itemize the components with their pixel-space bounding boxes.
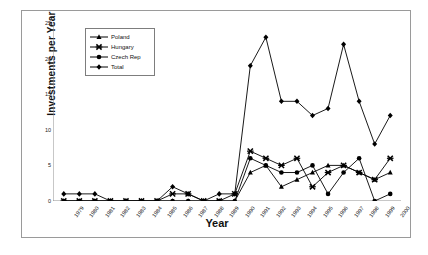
x-tick-label: 1983 <box>135 205 147 218</box>
x-tick-label: 1997 <box>352 205 364 218</box>
x-tick-label: 1980 <box>88 205 100 218</box>
y-axis-tick-labels: 0510152025 <box>32 23 51 201</box>
circle-marker <box>89 52 109 62</box>
y-tick-label: 25 <box>35 20 51 26</box>
x-tick-label: 1987 <box>197 205 209 218</box>
legend-item-czech-rep: Czech Rep <box>89 52 151 62</box>
legend-item-hungary: Hungary <box>89 42 151 52</box>
y-tick-label: 5 <box>35 162 51 168</box>
y-tick-label: 0 <box>35 198 51 204</box>
x-tick-label: 1982 <box>119 205 131 218</box>
legend-label: Poland <box>109 34 130 40</box>
x-tick-label: 1994 <box>306 205 318 218</box>
triangle-marker <box>89 32 109 42</box>
y-tick-label: 10 <box>35 127 51 133</box>
legend-label: Total <box>109 64 124 70</box>
x-tick-label: 1992 <box>275 205 287 218</box>
figure-frame: Investments per Year Year 0510152025 197… <box>21 10 411 238</box>
x-tick-label: 1990 <box>243 205 255 218</box>
legend-item-total: Total <box>89 62 151 72</box>
x-tick-label: 1985 <box>166 205 178 218</box>
y-tick-label: 20 <box>35 56 51 62</box>
x-tick-label: 1984 <box>150 205 162 218</box>
x-tick-label: 1986 <box>181 205 193 218</box>
x-tick-label: 1999 <box>383 205 395 218</box>
x-tick-label: 1981 <box>104 205 116 218</box>
x-tick-label: 1991 <box>259 205 271 218</box>
x-axis-tick-labels: 1979198019811982198319841985198619871988… <box>53 202 401 232</box>
x-tick-label: 1995 <box>321 205 333 218</box>
diamond-marker <box>89 62 109 72</box>
x-tick-label: 1996 <box>337 205 349 218</box>
x-tick-label: 1989 <box>228 205 240 218</box>
x-tick-label: 1979 <box>72 205 84 218</box>
x-tick-label: 1998 <box>368 205 380 218</box>
legend-label: Hungary <box>109 44 134 50</box>
chart-figure: Investments per Year Year 0510152025 197… <box>0 0 428 255</box>
legend-item-poland: Poland <box>89 32 151 42</box>
y-tick-label: 15 <box>35 91 51 97</box>
x-cross-marker <box>89 42 109 52</box>
chart-legend: PolandHungaryCzech RepTotal <box>85 28 155 76</box>
series-poland <box>61 163 392 201</box>
x-tick-label: 1988 <box>212 205 224 218</box>
legend-label: Czech Rep <box>109 54 141 60</box>
x-tick-label: 1993 <box>290 205 302 218</box>
